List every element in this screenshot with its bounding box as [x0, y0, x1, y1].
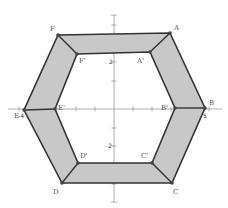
vertex-point	[173, 106, 177, 110]
vertex-point	[56, 33, 60, 37]
vertex-label: E'	[58, 104, 65, 112]
vertex-label: D	[53, 188, 59, 196]
hexagon-band-figure: ABCDEFA'B'C'D'E'F' 2-2-45	[0, 0, 228, 208]
vertex-label: F	[50, 25, 55, 33]
tick-label: -2	[106, 142, 112, 149]
vertex-point	[53, 107, 57, 111]
vertex-label: A'	[136, 57, 144, 65]
tick-label: 2	[109, 58, 113, 65]
vertex-point	[60, 181, 64, 185]
vertex-label: D'	[80, 152, 88, 160]
vertex-label: C	[173, 188, 178, 196]
vertex-point	[203, 106, 207, 110]
vertex-label: C'	[141, 152, 148, 160]
tick-label: -4	[18, 112, 24, 119]
vertex-label: B'	[161, 104, 168, 112]
vertex-point	[170, 181, 174, 185]
vertex-point	[76, 161, 80, 165]
vertex-point	[75, 52, 79, 56]
vertex-label: F'	[79, 57, 86, 65]
vertex-label: B	[209, 99, 214, 107]
vertex-point	[168, 31, 172, 35]
vertex-label: A	[173, 24, 180, 32]
vertex-point	[150, 161, 154, 165]
vertex-point	[148, 50, 152, 54]
connector-E	[24, 109, 55, 110]
tick-label: 5	[203, 112, 207, 119]
